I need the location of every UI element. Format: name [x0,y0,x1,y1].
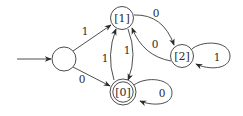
edge-label-s0-self-loop: 0 [159,87,166,99]
edge-label-s0-to-s1: 1 [102,52,109,64]
edge-start-to-s1 [73,25,111,51]
state-s2: [2] [171,45,194,68]
edge-label-start-to-s1: 1 [82,25,89,37]
edge-label-s2-to-s1: 0 [152,38,159,50]
edge-label-s1-to-s2: 0 [153,7,160,19]
state-start [52,47,76,71]
state-s0-accepting: [0] [110,79,136,105]
automaton-diagram: 1 0 0 0 1 1 1 0 [1] [0] [2] [0,0,243,116]
state-s0-label: [0] [115,86,131,99]
state-s1-label: [1] [114,12,130,25]
state-s1: [1] [111,7,134,30]
edge-label-start-to-s0: 0 [79,73,86,85]
edge-s2-self-loop [191,43,230,68]
state-s2-label: [2] [174,50,190,63]
edge-label-s1-to-s0: 1 [124,44,131,56]
edge-label-s2-self-loop: 1 [214,51,221,63]
edge-s0-to-s1 [110,29,116,80]
edge-s0-self-loop [134,80,172,104]
